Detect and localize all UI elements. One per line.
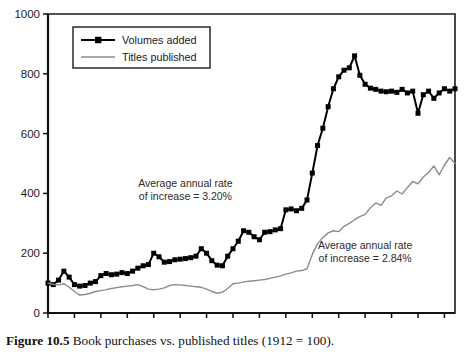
legend-label: Titles published — [122, 51, 197, 63]
y-tick-label: 1000 — [14, 8, 40, 20]
y-tick-label: 400 — [21, 187, 40, 199]
data-point-marker — [114, 272, 119, 277]
data-point-marker — [262, 230, 267, 235]
data-point-marker — [310, 171, 315, 176]
y-tick-label: 800 — [21, 68, 40, 80]
data-point-marker — [331, 86, 336, 91]
annotation-line-1: Average annual rate — [138, 177, 233, 189]
annotation-line-1: Average annual rate — [318, 239, 413, 251]
data-point-marker — [283, 207, 288, 212]
data-point-marker — [336, 74, 341, 79]
data-point-marker — [72, 282, 77, 287]
y-tick-label: 200 — [21, 247, 40, 259]
data-point-marker — [373, 87, 378, 92]
data-point-marker — [188, 255, 193, 260]
data-point-marker — [109, 272, 114, 277]
data-point-marker — [135, 266, 140, 271]
data-point-marker — [178, 257, 183, 262]
legend-label: Volumes added — [122, 34, 196, 46]
data-point-marker — [368, 86, 373, 91]
data-point-marker — [231, 246, 236, 251]
y-tick-label: 600 — [21, 128, 40, 140]
data-point-marker — [426, 89, 431, 94]
line-chart: 0200400600800100019121722273237424752576… — [0, 0, 475, 320]
data-point-marker — [194, 254, 199, 259]
data-point-marker — [252, 234, 257, 239]
data-point-marker — [294, 208, 299, 213]
data-point-marker — [236, 239, 241, 244]
chart-annotation: Average annual rateof increase = 2.84% — [318, 239, 413, 264]
data-point-marker — [278, 226, 283, 231]
data-point-marker — [141, 263, 146, 268]
data-point-marker — [130, 269, 135, 274]
data-point-marker — [125, 271, 130, 276]
data-point-marker — [61, 269, 66, 274]
data-point-marker — [421, 92, 426, 97]
data-point-marker — [431, 96, 436, 101]
data-point-marker — [342, 68, 347, 73]
data-point-marker — [225, 254, 230, 259]
data-point-marker — [320, 126, 325, 131]
data-point-marker — [220, 263, 225, 268]
annotation-line-2: of increase = 2.84% — [319, 252, 412, 264]
figure-caption-text: Book purchases vs. published titles (191… — [73, 333, 334, 348]
data-point-marker — [204, 251, 209, 256]
data-point-marker — [315, 143, 320, 148]
data-point-marker — [305, 197, 310, 202]
data-point-marker — [162, 260, 167, 265]
data-point-marker — [442, 86, 447, 91]
figure-caption: Figure 10.5 Book purchases vs. published… — [6, 333, 471, 349]
y-axis: 02004006008001000 — [14, 8, 48, 319]
data-point-marker — [299, 206, 304, 211]
annotation-line-2: of increase = 3.20% — [139, 190, 232, 202]
figure-container: 0200400600800100019121722273237424752576… — [0, 0, 475, 363]
data-point-marker — [67, 275, 72, 280]
data-point-marker — [379, 89, 384, 94]
data-point-marker — [400, 87, 405, 92]
data-point-marker — [268, 229, 273, 234]
data-point-marker — [157, 254, 162, 259]
data-point-marker — [384, 89, 389, 94]
data-point-marker — [88, 281, 93, 286]
data-point-marker — [289, 206, 294, 211]
data-point-marker — [98, 273, 103, 278]
data-point-marker — [104, 271, 109, 276]
data-point-marker — [77, 284, 82, 289]
data-point-marker — [273, 227, 278, 232]
data-point-marker — [183, 256, 188, 261]
data-point-marker — [437, 90, 442, 95]
data-point-marker — [83, 283, 88, 288]
data-point-marker — [120, 270, 125, 275]
data-point-marker — [56, 278, 61, 283]
data-point-marker — [209, 258, 214, 263]
data-point-marker — [416, 111, 421, 116]
data-point-marker — [453, 86, 458, 91]
data-point-marker — [215, 263, 220, 268]
data-point-marker — [389, 89, 394, 94]
chart-annotation: Average annual rateof increase = 3.20% — [138, 177, 233, 202]
data-point-marker — [246, 230, 251, 235]
data-point-marker — [363, 82, 368, 87]
data-point-marker — [326, 104, 331, 109]
data-point-marker — [405, 90, 410, 95]
data-point-marker — [172, 257, 177, 262]
data-point-marker — [410, 89, 415, 94]
data-point-marker — [199, 246, 204, 251]
data-point-marker — [167, 259, 172, 264]
data-point-marker — [151, 251, 156, 256]
data-point-marker — [447, 89, 452, 94]
chart-plot-area: 0200400600800100019121722273237424752576… — [0, 0, 475, 320]
data-point-marker — [352, 53, 357, 58]
chart-legend: Volumes addedTitles published — [73, 27, 210, 68]
data-point-marker — [347, 65, 352, 70]
legend-swatch-marker — [95, 37, 101, 43]
data-point-marker — [93, 279, 98, 284]
data-point-marker — [241, 228, 246, 233]
figure-caption-label: Figure 10.5 — [6, 333, 70, 348]
y-tick-label: 0 — [34, 307, 40, 319]
data-point-marker — [257, 237, 262, 242]
data-point-marker — [394, 90, 399, 95]
data-point-marker — [357, 73, 362, 78]
data-point-marker — [146, 262, 151, 267]
